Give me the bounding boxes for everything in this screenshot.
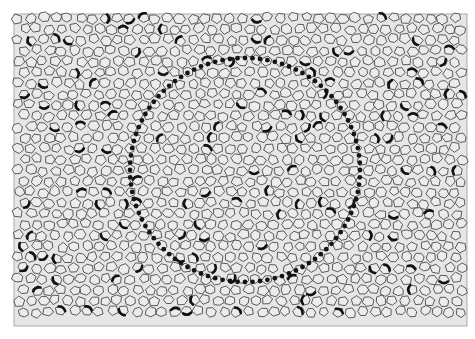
cell [396,306,406,315]
circle-dot [129,182,134,187]
cell [252,143,261,153]
circle-dot [346,217,351,222]
circle-dot [151,99,156,104]
cell [433,285,443,294]
circle-dot [156,94,161,99]
circle-dot [355,146,360,151]
cell [112,100,123,109]
circle-dot [167,83,172,88]
circle-dot [185,71,190,76]
circle-dot [243,280,248,285]
circle-dot [349,125,354,130]
circle-dot [342,112,347,117]
cell [394,132,404,142]
cell [38,12,50,22]
circle-dot [349,211,354,216]
circle-dot [294,67,299,72]
circle-dot [334,99,339,104]
circle-dot [318,252,323,257]
cell [439,297,449,306]
cell [343,154,354,165]
circle-dot [128,168,133,173]
circle-dot [156,241,161,246]
circle-dot [342,224,347,229]
cell [425,123,437,132]
cell [38,34,49,44]
cell [344,67,355,77]
cell [32,264,42,274]
circle-dot [334,236,339,241]
cell [44,221,55,231]
cell [108,133,119,143]
circle-dot [329,241,334,246]
circle-dot [272,276,277,281]
circle-dot [173,257,178,262]
circle-dot [357,153,362,158]
circle-dot [324,88,329,93]
circle-dot [192,67,197,72]
cell [213,231,224,241]
cell [325,231,335,240]
circle-dot [151,236,156,241]
cell [214,209,224,218]
cell [327,275,336,284]
cell [295,285,306,295]
circle-dot [352,204,357,209]
circle-dot [143,112,148,117]
circle-dot [206,62,211,67]
cell [63,100,74,110]
cell [400,296,410,306]
circle-dot [228,279,233,284]
circle-dot [228,57,233,62]
circle-dot [132,139,137,144]
cell [356,89,366,98]
cell [388,34,398,43]
cell [45,133,55,143]
cell [106,197,115,207]
circle-dot [130,146,135,151]
cell [194,199,205,209]
circle-dot [161,88,166,93]
circle-dot [143,224,148,229]
cell [390,145,400,154]
cell [368,24,379,33]
circle-dot [199,64,204,69]
circle-dot [352,132,357,137]
circle-dot [258,279,263,284]
circle-dot [206,274,211,279]
circle-dot [213,276,218,281]
circle-dot [192,268,197,273]
circle-dot [173,79,178,84]
circle-dot [220,277,225,282]
cell [203,165,213,174]
cell [358,307,368,316]
tissue-illustration [0,0,475,339]
circle-dot [129,153,134,158]
circle-dot [338,105,343,110]
circle-dot [220,58,225,63]
cell [258,67,268,77]
circle-dot [338,230,343,235]
cell [306,309,316,318]
cell [245,67,255,76]
cell [231,221,241,231]
circle-dot [357,160,362,165]
circle-dot [313,79,318,84]
circle-dot [132,197,137,202]
circle-dot [185,265,190,270]
cell [444,284,454,293]
cell [376,187,387,197]
circle-dot [287,64,292,69]
circle-dot [130,190,135,195]
cell [325,56,336,65]
circle-dot [147,105,152,110]
circle-dot [318,83,323,88]
circle-dot [300,265,305,270]
cell [100,78,111,88]
circle-dot [140,217,145,222]
circle-dot [250,279,255,284]
cell [232,240,242,250]
circle-dot [235,56,240,61]
cell [37,56,47,65]
circle-dot [358,168,363,173]
